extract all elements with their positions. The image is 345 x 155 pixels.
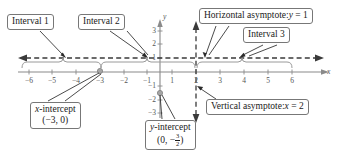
interval-2-leader (110, 31, 148, 58)
x-tick-label-pos6: 6 (282, 76, 302, 85)
x-tick-label-pos1: 1 (162, 76, 182, 85)
callout-interval-2[interactable]: Interval 2 (78, 14, 125, 30)
interval-3-leader (239, 45, 277, 58)
callout-horizontal-asymptote-prefix: Horizontal asymptote: (204, 10, 289, 20)
callout-interval-1-label: Interval 1 (12, 16, 49, 26)
x-tick-label-neg6: −6 (19, 76, 39, 85)
y-tick-label-pos2: 2 (146, 39, 156, 48)
horizontal-asymptote-leader (203, 26, 229, 58)
x-tick-label-pos2: 2 (186, 76, 206, 85)
callout-x-intercept-text: -intercept (39, 104, 75, 114)
x-tick-label-pos5: 5 (258, 76, 278, 85)
y-axis (157, 19, 162, 118)
interval-1-leader (40, 31, 66, 58)
x-tick-label-neg3: −3 (90, 76, 110, 85)
y-axis-label: y (163, 12, 166, 21)
callout-horizontal-asymptote[interactable]: Horizontal asymptote:y = 1 (199, 8, 313, 24)
callout-interval-1[interactable]: Interval 1 (7, 14, 54, 30)
callout-vertical-asymptote-rest: = 2 (289, 101, 304, 111)
y-intercept-point-open: (0, − (157, 135, 175, 145)
x-axis (18, 69, 329, 75)
y-tick-label-neg3: −3 (141, 108, 156, 117)
x-axis-label: x (327, 67, 330, 76)
x-tick-label-neg5: −5 (42, 76, 62, 85)
callout-y-intercept[interactable]: y-intercept (0, −32) (145, 120, 196, 150)
callout-x-intercept-point: (−3, 0) (35, 115, 76, 126)
vertical-asymptote-leader (197, 86, 216, 99)
x-intercept-marker (97, 68, 102, 73)
callout-x-intercept[interactable]: x-intercept (−3, 0) (30, 102, 81, 129)
rational-function-interval-diagram: x y −6 −5 −4 −3 −2 −1 1 2 3 4 5 6 3 2 1 … (0, 0, 345, 155)
y-tick-label-pos3: 3 (146, 26, 156, 35)
interval-3-brace (197, 58, 292, 68)
callout-interval-2-label: Interval 2 (83, 16, 120, 26)
callout-horizontal-asymptote-rest: = 1 (293, 10, 308, 20)
callout-interval-3[interactable]: Interval 3 (243, 27, 290, 43)
callout-y-intercept-point: (0, −32) (150, 133, 191, 147)
y-tick-label-neg2: −2 (141, 95, 156, 104)
y-intercept-marker (157, 90, 162, 95)
y-tick-label-pos1: 1 (146, 53, 156, 62)
callout-vertical-asymptote[interactable]: Vertical asymptote:x = 2 (206, 99, 309, 115)
callout-vertical-asymptote-prefix: Vertical asymptote: (211, 101, 285, 111)
x-tick-label-neg2: −2 (114, 76, 134, 85)
y-tick-label-neg1: −1 (141, 81, 156, 90)
interval-1-brace (22, 58, 101, 68)
y-intercept-point-close: ) (180, 135, 183, 145)
x-tick-label-pos3: 3 (210, 76, 230, 85)
x-tick-label-pos4: 4 (234, 76, 254, 85)
callout-y-intercept-text: -intercept (154, 122, 190, 132)
x-tick-label-neg4: −4 (66, 76, 86, 85)
y-intercept-leader (160, 95, 175, 119)
callout-interval-3-label: Interval 3 (248, 29, 285, 39)
